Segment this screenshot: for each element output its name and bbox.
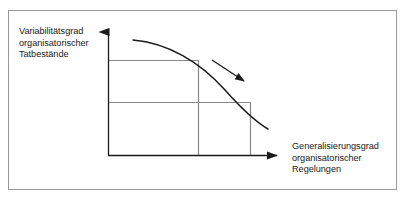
- x-axis-label-line-2: organisatorischer: [292, 153, 379, 165]
- x-axis-label-line-1: Generalisierungsgrad: [292, 141, 379, 153]
- y-axis-label: Variabilitätsgrad organisatorischer Tatb…: [19, 26, 89, 61]
- y-axis-label-line-2: organisatorischer: [19, 38, 89, 50]
- tradeoff-curve: [133, 40, 268, 129]
- y-axis-label-line-3: Tatbestände: [19, 49, 89, 61]
- y-axis-label-line-1: Variabilitätsgrad: [19, 26, 89, 38]
- x-axis-label-line-3: Regelungen: [292, 164, 379, 176]
- curve-direction-arrow: [212, 60, 244, 81]
- figure-root: Variabilitätsgrad organisatorischer Tatb…: [0, 0, 410, 201]
- x-axis-label: Generalisierungsgrad organisatorischer R…: [292, 141, 379, 176]
